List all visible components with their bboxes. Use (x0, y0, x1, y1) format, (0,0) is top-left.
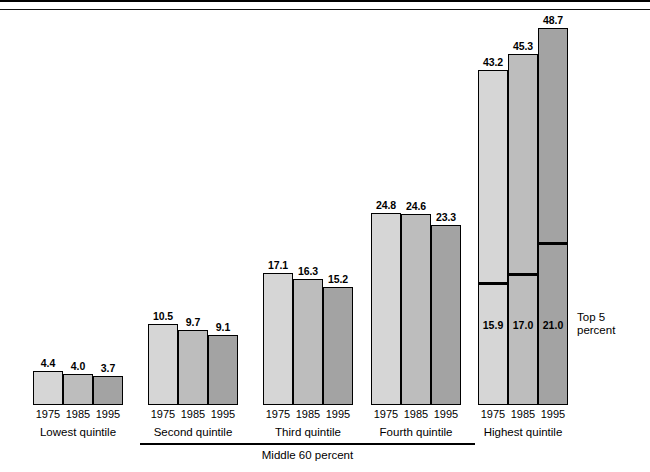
middle-60-bracket-line (140, 443, 475, 445)
top-5-percent-divider-1995 (539, 242, 567, 245)
bar-second-quintile-1995 (208, 335, 238, 405)
bar-highest-quintile-1995 (538, 28, 568, 405)
top-5-percent-divider-1975 (479, 282, 507, 285)
top-5-percent-line2: percent (577, 324, 615, 337)
group-label-highest-quintile: Highest quintile (443, 426, 603, 438)
bar-value-label-lowest-quintile-1995: 3.7 (87, 362, 129, 374)
year-tick-lowest-quintile-1995: 1995 (89, 408, 127, 420)
bar-highest-quintile-1985 (508, 54, 538, 405)
bar-third-quintile-1985 (293, 279, 323, 405)
top-5-percent-value-1975: 15.9 (476, 319, 510, 331)
year-tick-fourth-quintile-1995: 1995 (427, 408, 465, 420)
top-5-percent-annotation: Top 5 percent (577, 311, 615, 337)
year-tick-second-quintile-1995: 1995 (204, 408, 242, 420)
bar-third-quintile-1975 (263, 273, 293, 405)
year-tick-third-quintile-1995: 1995 (319, 408, 357, 420)
bar-second-quintile-1975 (148, 324, 178, 405)
top-5-percent-value-1995: 21.0 (536, 319, 570, 331)
bar-fourth-quintile-1995 (431, 225, 461, 405)
bar-fourth-quintile-1985 (401, 214, 431, 405)
bar-second-quintile-1985 (178, 330, 208, 405)
bar-lowest-quintile-1995 (93, 376, 123, 405)
top-5-percent-divider-1985 (509, 273, 537, 276)
bar-fourth-quintile-1975 (371, 213, 401, 405)
top-5-percent-line1: Top 5 (577, 311, 615, 324)
bar-value-label-highest-quintile-1995: 48.7 (532, 14, 574, 26)
bar-value-label-third-quintile-1995: 15.2 (317, 273, 359, 285)
bar-highest-quintile-1975 (478, 70, 508, 405)
chart-title-clipped: Share of Aggregate Income Received by Ea… (0, 0, 650, 1)
top-rule-thin (0, 9, 650, 10)
middle-60-bracket-label: Middle 60 percent (140, 449, 475, 461)
bar-lowest-quintile-1985 (63, 374, 93, 405)
chart-canvas: Share of Aggregate Income Received by Ea… (0, 0, 650, 472)
bar-value-label-second-quintile-1995: 9.1 (202, 321, 244, 333)
bar-third-quintile-1995 (323, 287, 353, 405)
bar-value-label-fourth-quintile-1995: 23.3 (425, 211, 467, 223)
top-5-percent-value-1985: 17.0 (506, 319, 540, 331)
year-tick-highest-quintile-1995: 1995 (534, 408, 572, 420)
bar-lowest-quintile-1975 (33, 371, 63, 405)
